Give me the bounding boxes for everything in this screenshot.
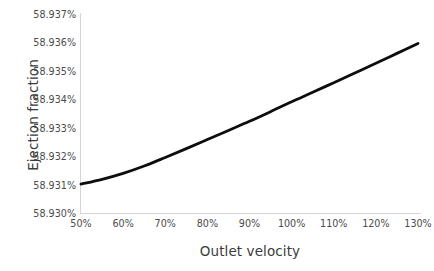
plot-area	[0, 0, 434, 271]
series-line-ejection-fraction	[81, 43, 418, 184]
x-axis-title: Outlet velocity	[80, 243, 420, 259]
ejection-fraction-line-chart: Ejection fraction 58.937%58.936%58.935%5…	[0, 0, 434, 271]
